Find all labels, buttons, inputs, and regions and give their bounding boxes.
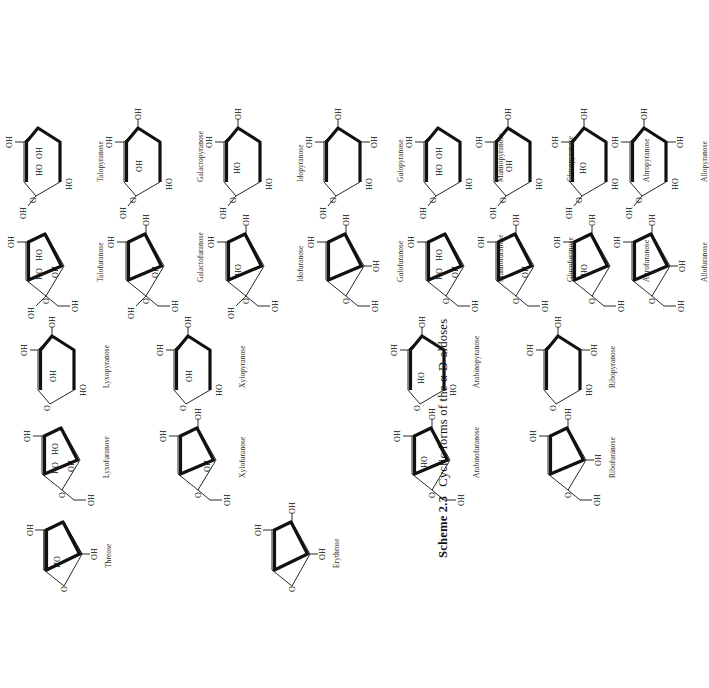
label-lyxopyranose: Lyxopyranose <box>102 345 111 388</box>
svg-text:OH: OH <box>554 316 563 328</box>
svg-text:OH: OH <box>418 316 427 328</box>
svg-text:OH: OH <box>20 344 29 356</box>
svg-text:HO: HO <box>535 178 544 190</box>
svg-text:OH: OH <box>107 236 116 248</box>
svg-text:HO: HO <box>51 443 60 455</box>
label-erythrose: Erythrose <box>332 538 341 568</box>
svg-text:HO: HO <box>35 249 44 261</box>
scheme-caption-text: Cyclic forms of the α-D-aldoses <box>436 319 450 487</box>
svg-text:OH: OH <box>457 494 466 506</box>
svg-text:OH: OH <box>27 307 36 319</box>
svg-text:OH: OH <box>407 236 416 248</box>
svg-text:OH: OH <box>475 136 484 148</box>
svg-text:OH: OH <box>640 108 649 120</box>
svg-text:O: O <box>575 197 584 203</box>
svg-text:O: O <box>43 405 52 411</box>
svg-text:HO: HO <box>671 178 680 190</box>
svg-text:OH: OH <box>205 136 214 148</box>
svg-text:O: O <box>129 197 138 203</box>
structure-threose: O OH OH HO <box>34 514 92 592</box>
svg-text:OH: OH <box>625 207 634 219</box>
svg-text:OH: OH <box>342 214 351 226</box>
label-allopyranose: Allopyranose <box>700 141 709 182</box>
label-talopyranose: Talopyranose <box>96 141 105 182</box>
svg-text:OH: OH <box>219 207 228 219</box>
svg-text:OH: OH <box>119 207 128 219</box>
svg-text:OH: OH <box>521 266 530 278</box>
label-galactopyranose: Galactopyranose <box>196 131 205 182</box>
svg-text:OH: OH <box>19 207 28 219</box>
label-gulopyranose: Gulopyranose <box>396 139 405 182</box>
svg-text:HO: HO <box>51 462 60 474</box>
label-xylopyranose: Xylopyranose <box>238 345 247 388</box>
svg-text:O: O <box>29 197 38 203</box>
svg-text:OH: OH <box>171 300 180 312</box>
svg-text:OH: OH <box>590 344 599 356</box>
structure-galactofuranose: O OH OH OH OH OH <box>110 224 184 310</box>
structure-xylofuranose: O OH OH OH OH <box>166 420 232 502</box>
svg-text:OH: OH <box>288 502 297 514</box>
svg-text:HO: HO <box>234 264 243 276</box>
svg-text:OH: OH <box>371 300 380 312</box>
structure-gulofuranose: O OH OH OH OH <box>310 224 384 310</box>
structure-lyxopyranose: O OH OH OH HO <box>30 330 96 412</box>
svg-text:OH: OH <box>588 214 597 226</box>
structure-glucopyranose: O OH OH OH HO OH <box>480 122 554 210</box>
svg-text:OH: OH <box>541 300 550 312</box>
svg-text:OH: OH <box>49 370 58 382</box>
svg-text:OH: OH <box>676 136 685 148</box>
svg-text:HO: HO <box>265 178 274 190</box>
svg-text:OH: OH <box>184 316 193 328</box>
label-allofuranose: Allofuranose <box>700 242 709 282</box>
svg-text:OH: OH <box>134 108 143 120</box>
structure-idofuranose: O OH HO OH OH OH <box>210 224 284 310</box>
svg-text:OH: OH <box>529 430 538 442</box>
svg-text:O: O <box>229 197 238 203</box>
svg-text:HO: HO <box>585 384 594 396</box>
structure-gulopyranose: O OH OH OH HO OH <box>310 122 384 210</box>
structure-allofuranose: O OH OH OH OH <box>616 224 690 310</box>
structure-glucofuranose: O OH OH OH OH <box>480 224 554 310</box>
svg-text:OH: OH <box>334 108 343 120</box>
svg-text:OH: OH <box>372 260 381 272</box>
structure-arabinopyranose: O OH HO OH HO <box>400 330 466 412</box>
svg-text:HO: HO <box>233 162 242 174</box>
svg-text:OH: OH <box>185 370 194 382</box>
svg-text:OH: OH <box>207 236 216 248</box>
svg-text:OH: OH <box>594 454 603 466</box>
svg-text:O: O <box>549 405 558 411</box>
structure-mannopyranose: O OH HO OH HO OH <box>410 122 484 210</box>
svg-text:OH: OH <box>305 136 314 148</box>
svg-text:OH: OH <box>435 147 444 159</box>
label-talofuranose: Talofuranose <box>96 242 105 282</box>
svg-text:HO: HO <box>79 384 88 396</box>
svg-text:O: O <box>60 586 69 592</box>
structure-lyxofuranose: O OH HO OH HO OH <box>30 420 96 502</box>
svg-text:OH: OH <box>611 136 620 148</box>
structure-ribopyranose: O OH OH OH HO <box>536 330 602 412</box>
structure-idopyranose: O OH HO OH HO OH <box>210 122 284 210</box>
svg-text:OH: OH <box>35 147 44 159</box>
svg-text:OH: OH <box>227 307 236 319</box>
svg-text:OH: OH <box>5 136 14 148</box>
label-lyxofuranose: Lyxofuranose <box>102 436 111 478</box>
svg-text:OH: OH <box>477 236 486 248</box>
scheme-caption: Scheme 2.3Cyclic forms of the α-D-aldose… <box>436 319 451 558</box>
svg-text:OH: OH <box>512 214 521 226</box>
svg-text:O: O <box>429 197 438 203</box>
label-arabinofuranose: Arabinofuranose <box>472 427 481 478</box>
svg-text:HO: HO <box>435 268 444 280</box>
svg-text:O: O <box>413 405 422 411</box>
structure-talopyranose: O OH HO OH HO OH <box>10 122 84 210</box>
svg-text:HO: HO <box>435 249 444 261</box>
svg-text:OH: OH <box>48 316 57 328</box>
svg-text:OH: OH <box>419 207 428 219</box>
svg-text:HO: HO <box>465 178 474 190</box>
svg-text:OH: OH <box>393 430 402 442</box>
label-ribopyranose: Ribopyranose <box>608 346 617 388</box>
svg-text:HO: HO <box>53 556 62 568</box>
label-ribofuranose: Ribofuranose <box>608 437 617 478</box>
svg-text:HO: HO <box>35 164 44 176</box>
svg-text:OH: OH <box>648 214 657 226</box>
svg-text:OH: OH <box>203 460 212 472</box>
